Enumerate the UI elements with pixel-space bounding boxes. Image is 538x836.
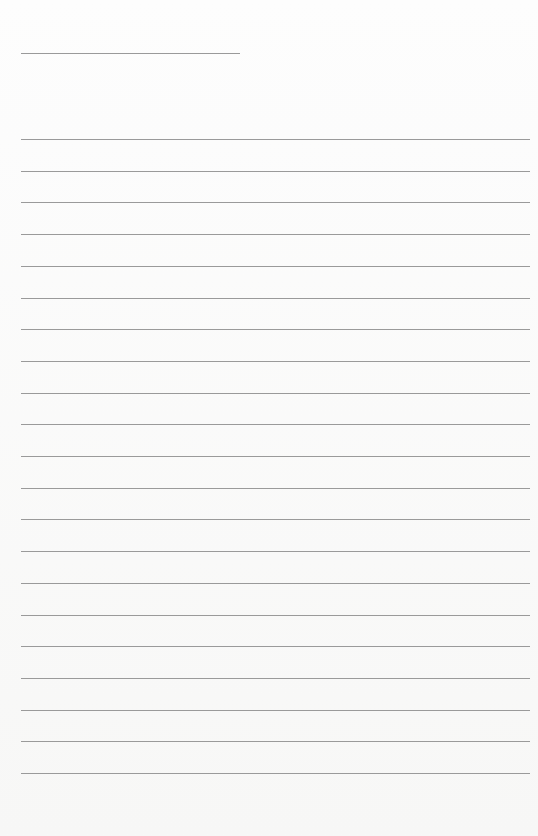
ruled-line bbox=[21, 519, 530, 520]
ruled-line bbox=[21, 202, 530, 203]
ruled-line bbox=[21, 646, 530, 647]
ruled-line bbox=[21, 234, 530, 235]
ruled-line bbox=[21, 551, 530, 552]
ruled-line bbox=[21, 773, 530, 774]
ruled-line bbox=[21, 266, 530, 267]
ruled-line bbox=[21, 329, 530, 330]
ruled-line bbox=[21, 298, 530, 299]
ruled-line bbox=[21, 456, 530, 457]
ruled-line bbox=[21, 678, 530, 679]
ruled-line bbox=[21, 171, 530, 172]
ruled-line bbox=[21, 361, 530, 362]
ruled-line bbox=[21, 615, 530, 616]
header-line bbox=[21, 53, 240, 54]
ruled-line bbox=[21, 741, 530, 742]
ruled-line bbox=[21, 393, 530, 394]
ruled-line bbox=[21, 488, 530, 489]
ruled-line bbox=[21, 710, 530, 711]
ruled-line bbox=[21, 139, 530, 140]
lined-paper bbox=[0, 0, 538, 836]
ruled-line bbox=[21, 424, 530, 425]
ruled-line bbox=[21, 583, 530, 584]
